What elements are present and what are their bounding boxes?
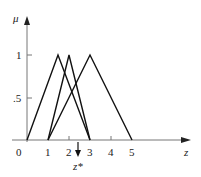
y-tick-label-1: 1	[16, 49, 22, 61]
x-tick-label-3: 3	[87, 146, 93, 158]
y-axis-label: μ	[12, 12, 19, 24]
x-axis-label: z	[183, 146, 189, 158]
x-tick-label-2: 2	[66, 146, 72, 158]
membership-chart: μ z 1 .5 0 1 2 3 4 5 z*	[0, 0, 201, 177]
x-tick-label-1: 1	[45, 146, 51, 158]
origin-label: 0	[16, 146, 22, 158]
y-tick-label-05: .5	[13, 92, 22, 104]
zstar-arrow-icon	[75, 150, 81, 157]
x-tick-label-4: 4	[108, 146, 114, 158]
x-axis-arrow-icon	[181, 137, 191, 143]
y-axis-arrow-icon	[24, 16, 30, 25]
x-tick-label-5: 5	[129, 146, 135, 158]
zstar-label: z*	[72, 160, 83, 172]
triangle-3	[48, 55, 132, 140]
